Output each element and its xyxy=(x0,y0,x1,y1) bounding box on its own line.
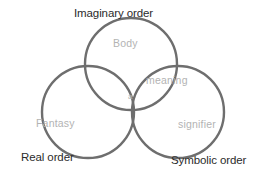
label-region-fantasy: Fantasy xyxy=(36,118,75,129)
label-real-order: Real order xyxy=(21,152,74,164)
label-region-body: Body xyxy=(113,38,138,49)
label-region-signifier: signifier xyxy=(178,119,216,130)
label-imaginary-order: Imaginary order xyxy=(74,8,153,20)
label-region-meaning: meaning xyxy=(146,75,188,86)
label-symbolic-order: Symbolic order xyxy=(171,155,246,167)
label-region-a: a xyxy=(128,93,133,101)
venn-diagram-canvas: Imaginary order Real order Symbolic orde… xyxy=(0,0,279,177)
